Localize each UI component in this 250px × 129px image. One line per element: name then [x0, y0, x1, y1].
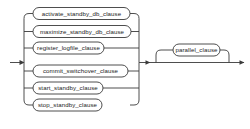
- node-activate-standby-db-clause[interactable]: activate_standby_db_clause: [33, 8, 130, 20]
- node-commit-switchover-clause[interactable]: commit_switchover_clause: [33, 65, 128, 77]
- railroad-diagram-canvas: activate_standby_db_clause maximize_stan…: [0, 0, 250, 129]
- node-label-commit-switchover-clause: commit_switchover_clause: [43, 67, 119, 74]
- node-label-parallel-clause: parallel_clause: [175, 46, 218, 53]
- node-start-standby-clause[interactable]: start_standby_clause: [33, 82, 103, 94]
- railroad-diagram: activate_standby_db_clause maximize_stan…: [0, 0, 250, 129]
- mid-connector-arrow: [139, 60, 150, 65]
- exit-arrow: [235, 60, 244, 65]
- node-stop-standby-clause[interactable]: stop_standby_clause: [33, 99, 102, 111]
- entry-arrow: [10, 60, 25, 65]
- left-branch-rail: [24, 14, 33, 106]
- node-label-stop-standby-clause: stop_standby_clause: [38, 101, 98, 108]
- node-label-activate-standby-db-clause: activate_standby_db_clause: [42, 10, 122, 17]
- node-parallel-clause[interactable]: parallel_clause: [173, 44, 220, 56]
- node-label-start-standby-clause: start_standby_clause: [38, 84, 98, 91]
- node-label-maximize-standby-db-clause: maximize_standby_db_clause: [40, 28, 125, 35]
- node-maximize-standby-db-clause[interactable]: maximize_standby_db_clause: [33, 26, 131, 38]
- node-register-logfile-clause[interactable]: register_logfile_clause: [33, 42, 104, 54]
- node-label-register-logfile-clause: register_logfile_clause: [37, 44, 100, 51]
